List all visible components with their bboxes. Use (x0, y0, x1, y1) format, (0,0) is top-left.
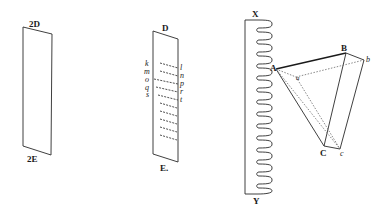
panel-3-coil: X Y (245, 9, 272, 206)
dashed-row (160, 111, 177, 116)
coil-winding (257, 20, 272, 194)
label-t: t (180, 95, 183, 104)
label-x: X (252, 9, 259, 19)
label-2d: 2D (29, 19, 41, 29)
dashed-row (160, 119, 177, 124)
dashed-row (160, 127, 177, 132)
panel-1-plate: 2D 2E (23, 19, 52, 164)
dashed-rows (154, 63, 178, 140)
dashed-row (160, 63, 178, 68)
label-s: s (146, 90, 149, 99)
label-vertex-B: B (341, 43, 347, 53)
dashed-row (158, 95, 178, 100)
label-vertex-A: A (270, 63, 277, 73)
dashed-row (160, 135, 177, 140)
label-y: Y (253, 196, 260, 206)
dashed-row (156, 87, 178, 92)
label-vertex-b: b (366, 55, 370, 64)
figure-canvas: 2D 2E D E. k m o q s l n p r t (0, 0, 376, 221)
label-vertex-c: c (340, 149, 344, 158)
dashed-row (154, 79, 178, 84)
label-vertex-C: C (320, 148, 327, 158)
hidden-edge-a2-c2 (296, 77, 340, 149)
panel-2-plate: D E. k m o q s l n p r t (144, 23, 184, 173)
edge-b-b2 (346, 53, 364, 60)
edge-b2-c2 (340, 60, 364, 149)
dashed-row (160, 103, 177, 108)
edge-a-c (276, 69, 324, 146)
coil-bracket (245, 20, 258, 194)
dashed-row (160, 71, 178, 76)
label-vertex-a: a (296, 74, 300, 82)
edge-a-b (276, 53, 346, 69)
label-2e: 2E (27, 154, 38, 164)
panel-3-prism: A a B b C c (270, 43, 370, 158)
plate-2d-2e-outline (23, 27, 52, 155)
label-e: E. (160, 163, 168, 173)
hidden-edge-a-c2 (276, 69, 340, 149)
label-d: D (162, 23, 169, 33)
